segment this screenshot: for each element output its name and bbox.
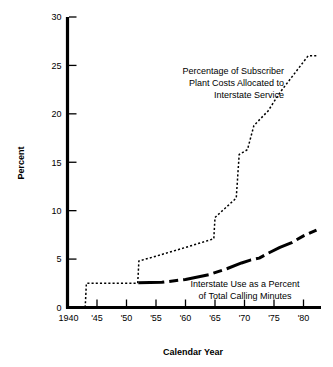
x-tick-label: 1940 xyxy=(58,313,78,323)
annotation-line: of Total Calling Minutes xyxy=(199,291,292,301)
y-tick-label: 20 xyxy=(51,109,61,119)
x-axis-tick-labels: 1940'45'50'55'60'65'70'75'80 xyxy=(58,313,309,323)
x-tick-label: '55 xyxy=(150,313,162,323)
y-tick-label: 15 xyxy=(51,158,61,168)
x-tick-label: '45 xyxy=(91,313,103,323)
line-chart: 051015202530 1940'45'50'55'60'65'70'75'8… xyxy=(0,0,333,367)
x-tick-label: '50 xyxy=(121,313,133,323)
annotation-line: Interstate Use as a Percent xyxy=(190,279,300,289)
x-tick-label: '80 xyxy=(298,313,310,323)
y-tick-label: 30 xyxy=(51,12,61,22)
x-tick-label: '60 xyxy=(180,313,192,323)
annotation-line: Percentage of Subscriber xyxy=(182,66,284,76)
x-tick-label: '70 xyxy=(239,313,251,323)
y-tick-label: 10 xyxy=(51,206,61,216)
annotation-line: Plant Costs Allocated to xyxy=(189,78,284,88)
y-axis-title: Percent xyxy=(16,146,26,179)
chart-background xyxy=(0,0,333,367)
y-tick-label: 5 xyxy=(56,254,61,264)
chart-container: 051015202530 1940'45'50'55'60'65'70'75'8… xyxy=(0,0,333,367)
x-tick-label: '65 xyxy=(209,313,221,323)
annotation-line: Interstate Service xyxy=(214,90,284,100)
x-tick-label: '75 xyxy=(268,313,280,323)
x-axis-title: Calendar Year xyxy=(163,347,223,357)
y-tick-label: 0 xyxy=(56,303,61,313)
y-tick-label: 25 xyxy=(51,61,61,71)
